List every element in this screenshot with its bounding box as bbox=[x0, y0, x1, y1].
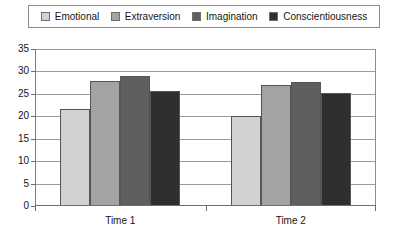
bar[interactable] bbox=[150, 91, 180, 206]
legend-item[interactable]: Conscientiousness bbox=[269, 12, 367, 22]
y-axis-tick-label: 35 bbox=[3, 44, 29, 54]
y-axis-tick-label: 20 bbox=[3, 111, 29, 121]
y-axis-tick-mark bbox=[31, 139, 35, 140]
bar[interactable] bbox=[291, 82, 321, 206]
bar[interactable] bbox=[60, 109, 90, 206]
legend-item[interactable]: Extraversion bbox=[111, 12, 181, 22]
y-axis-line bbox=[35, 49, 36, 206]
bar[interactable] bbox=[231, 116, 261, 206]
bar[interactable] bbox=[261, 85, 291, 206]
bar-group bbox=[60, 49, 180, 206]
bar[interactable] bbox=[120, 76, 150, 206]
y-axis-tick-mark bbox=[31, 49, 35, 50]
legend-item-label: Extraversion bbox=[125, 12, 181, 22]
legend-item[interactable]: Imagination bbox=[192, 12, 258, 22]
x-axis-tick-label: Time 2 bbox=[276, 215, 306, 226]
legend-swatch-icon bbox=[111, 12, 120, 21]
legend-swatch-icon bbox=[41, 12, 50, 21]
legend-item[interactable]: Emotional bbox=[41, 12, 99, 22]
x-axis-tick-mark bbox=[35, 206, 36, 211]
bar[interactable] bbox=[321, 93, 351, 206]
y-axis-tick-mark bbox=[31, 161, 35, 162]
legend-swatch-icon bbox=[269, 12, 278, 21]
legend-swatch-icon bbox=[192, 12, 201, 21]
y-axis-tick-label: 0 bbox=[3, 201, 29, 211]
y-axis-tick-mark bbox=[31, 94, 35, 95]
y-axis-tick-label: 25 bbox=[3, 89, 29, 99]
bar-chart: EmotionalExtraversionImaginationConscien… bbox=[0, 0, 396, 238]
y-axis-tick-mark bbox=[31, 71, 35, 72]
x-axis-tick-label: Time 1 bbox=[105, 215, 135, 226]
y-axis-tick-mark bbox=[31, 116, 35, 117]
bar[interactable] bbox=[90, 81, 120, 206]
legend-item-label: Imagination bbox=[206, 12, 258, 22]
legend-item-label: Emotional bbox=[55, 12, 99, 22]
chart-legend: EmotionalExtraversionImaginationConscien… bbox=[28, 5, 380, 28]
x-axis-tick-mark bbox=[375, 206, 376, 211]
y-axis-tick-label: 30 bbox=[3, 66, 29, 76]
y-axis-tick-mark bbox=[31, 184, 35, 185]
bar-group bbox=[231, 49, 351, 206]
legend-item-label: Conscientiousness bbox=[283, 12, 367, 22]
y-axis-tick-label: 10 bbox=[3, 156, 29, 166]
x-axis-tick-mark bbox=[206, 206, 207, 211]
y-axis-tick-label: 5 bbox=[3, 179, 29, 189]
y-axis-tick-label: 15 bbox=[3, 134, 29, 144]
